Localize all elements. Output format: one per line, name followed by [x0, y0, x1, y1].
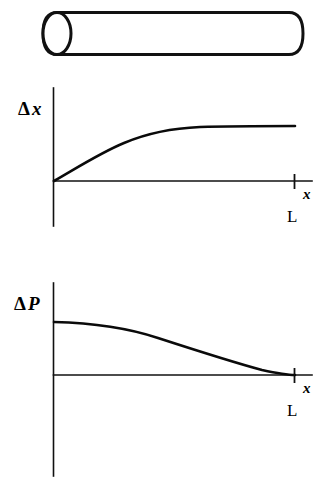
delta-p-tick-label: L — [287, 401, 297, 420]
delta-p-label-var: P — [27, 293, 40, 314]
tube-body-outline — [43, 13, 303, 55]
delta-x-plot: Δ x x L — [18, 88, 312, 226]
figure-canvas: Δ x x L Δ P x L — [0, 0, 334, 488]
delta-p-plot: Δ P x L — [14, 283, 312, 476]
figure-container: Δ x x L Δ P x L — [0, 0, 334, 488]
delta-p-axis-label: x — [302, 380, 311, 396]
delta-x-tick-label: L — [287, 207, 297, 226]
delta-x-label-delta: Δ — [18, 98, 30, 119]
cylindrical-tube — [34, 13, 303, 73]
delta-x-label-var: x — [31, 98, 42, 119]
delta-p-label-delta: Δ — [14, 293, 26, 314]
delta-x-curve — [54, 126, 295, 181]
delta-p-curve — [54, 322, 295, 375]
delta-x-axis-label: x — [302, 186, 311, 202]
tube-left-cap — [43, 13, 71, 55]
